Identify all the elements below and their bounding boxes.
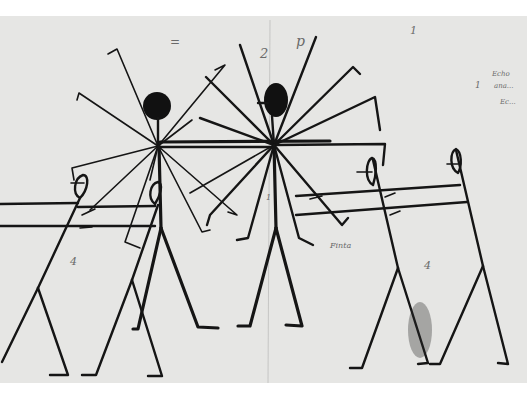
annotation-label-4-left: 4 [69, 255, 77, 268]
annotation-note-right-1: Echo [491, 70, 510, 78]
figure-2-head [264, 83, 288, 117]
annotation-label-top-right: 1 [410, 24, 417, 37]
horizontal-bar [78, 206, 155, 207]
annotation-note-mid: Finta [329, 241, 351, 250]
annotation-note-right-3: Ec... [499, 98, 516, 106]
annotation-scribble-top: = [170, 35, 180, 49]
sketch-canvas: 2 1 p = 4 4 1 Finta 1 Echo ana... Ec... [0, 0, 530, 398]
annotation-label-4-right: 4 [423, 259, 431, 272]
figure-1-head [143, 92, 171, 120]
figure-connecting-bar [160, 141, 330, 142]
annotation-note-right-2: ana... [494, 82, 514, 90]
annotation-center-small: 1 [266, 193, 271, 202]
figure-2-spine [274, 145, 276, 228]
annotation-note-right-marker: 1 [475, 80, 481, 90]
horizontal-bar [0, 203, 78, 204]
arrow-tick [80, 227, 92, 228]
annotation-label-2: 2 [259, 46, 268, 61]
ink-smudge [408, 302, 432, 358]
annotation-top-center: p [296, 33, 305, 49]
